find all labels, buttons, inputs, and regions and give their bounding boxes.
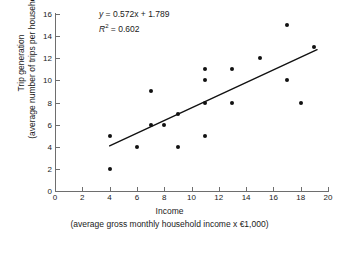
data-point	[203, 134, 207, 138]
data-point	[176, 112, 180, 116]
data-point	[149, 123, 153, 127]
y-tick-label: 4	[36, 143, 52, 152]
x-axis-line	[55, 191, 329, 192]
x-tick-label: 2	[72, 193, 92, 202]
data-point	[203, 101, 207, 105]
x-tick-mark	[328, 187, 329, 191]
equation-body: = 0.572x + 1.789	[103, 9, 169, 19]
x-tick-label: 16	[263, 193, 283, 202]
y-tick-mark	[56, 191, 60, 192]
data-point	[108, 167, 112, 171]
data-point	[108, 134, 112, 138]
x-axis-title: Income	[0, 206, 339, 217]
y-axis-title-main: Trip generation	[16, 0, 27, 148]
r-squared-annotation: R2 = 0.602	[99, 20, 169, 35]
r-squared-body: = 0.602	[108, 24, 139, 34]
y-tick-label: 0	[36, 187, 52, 196]
y-tick-label: 16	[36, 10, 52, 19]
y-tick-label: 12	[36, 54, 52, 63]
plot-area	[55, 14, 328, 191]
x-tick-label: 14	[236, 193, 256, 202]
y-tick-label: 2	[36, 165, 52, 174]
x-tick-label: 12	[209, 193, 229, 202]
y-tick-label: 6	[36, 121, 52, 130]
data-point	[135, 145, 139, 149]
x-tick-label: 18	[291, 193, 311, 202]
data-point	[258, 56, 262, 60]
x-tick-label: 10	[182, 193, 202, 202]
data-point	[299, 101, 303, 105]
x-tick-label: 8	[154, 193, 174, 202]
y-tick-label: 14	[36, 32, 52, 41]
data-point	[176, 145, 180, 149]
y-tick-label: 10	[36, 76, 52, 85]
scatter-chart: 02468101214161820 0246810121416 y = 0.57…	[0, 0, 339, 253]
y-tick-label: 8	[36, 99, 52, 108]
x-tick-label: 6	[127, 193, 147, 202]
y-axis-title: Trip generation (average number of trips…	[16, 0, 38, 148]
x-axis-subtitle: (average gross monthly household income …	[0, 219, 339, 230]
y-axis-title-sub: (average number of trips per household)	[27, 0, 38, 148]
regression-equation: y = 0.572x + 1.789	[99, 8, 169, 20]
data-point	[162, 123, 166, 127]
regression-annotation: y = 0.572x + 1.789 R2 = 0.602	[99, 8, 169, 35]
x-tick-label: 4	[100, 193, 120, 202]
x-tick-label: 20	[318, 193, 338, 202]
